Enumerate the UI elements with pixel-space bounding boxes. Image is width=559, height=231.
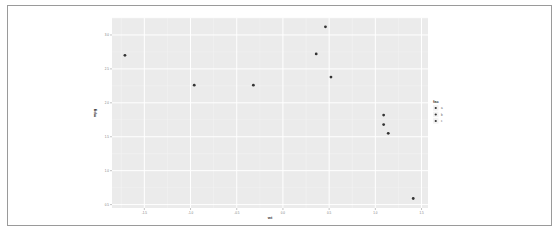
legend-key-point <box>435 120 437 122</box>
y-axis-title: mpg <box>92 108 97 117</box>
scatter-chart: -1.5-1.0-0.50.00.51.01.5 0.51.01.52.02.5… <box>0 0 559 231</box>
data-point <box>252 84 255 87</box>
data-point <box>412 197 415 200</box>
y-tick-label: 1.0 <box>105 169 110 173</box>
y-tick-label: 3.0 <box>105 33 110 37</box>
data-point <box>382 123 385 126</box>
y-tick-label: 0.5 <box>105 203 110 207</box>
x-tick-label: 0.5 <box>327 211 332 215</box>
x-axis-ticks: -1.5-1.0-0.50.00.51.01.5 <box>142 208 424 215</box>
data-point <box>193 84 196 87</box>
legend-label: b <box>441 113 443 117</box>
data-point <box>124 54 127 57</box>
y-axis-ticks: 0.51.01.52.02.53.0 <box>105 33 112 207</box>
y-tick-label: 2.0 <box>105 101 110 105</box>
legend-title: fac <box>433 99 440 104</box>
data-point <box>315 53 318 56</box>
y-tick-label: 2.5 <box>105 67 110 71</box>
legend-key-point <box>435 107 437 109</box>
plot-panel <box>112 18 428 208</box>
x-tick-label: 1.0 <box>373 211 378 215</box>
legend-label: a <box>441 106 443 110</box>
data-point <box>330 76 333 79</box>
data-point <box>387 132 390 135</box>
data-point <box>324 25 327 28</box>
x-tick-label: 1.5 <box>419 211 424 215</box>
x-tick-label: -0.5 <box>234 211 240 215</box>
x-tick-label: 0.0 <box>281 211 286 215</box>
legend: fac abc <box>433 99 443 124</box>
x-axis-title: wt <box>267 215 273 220</box>
legend-label: c <box>441 119 443 123</box>
legend-key-point <box>435 113 437 115</box>
y-tick-label: 1.5 <box>105 135 110 139</box>
x-tick-label: -1.0 <box>188 211 194 215</box>
x-tick-label: -1.5 <box>142 211 148 215</box>
data-point <box>382 114 385 117</box>
